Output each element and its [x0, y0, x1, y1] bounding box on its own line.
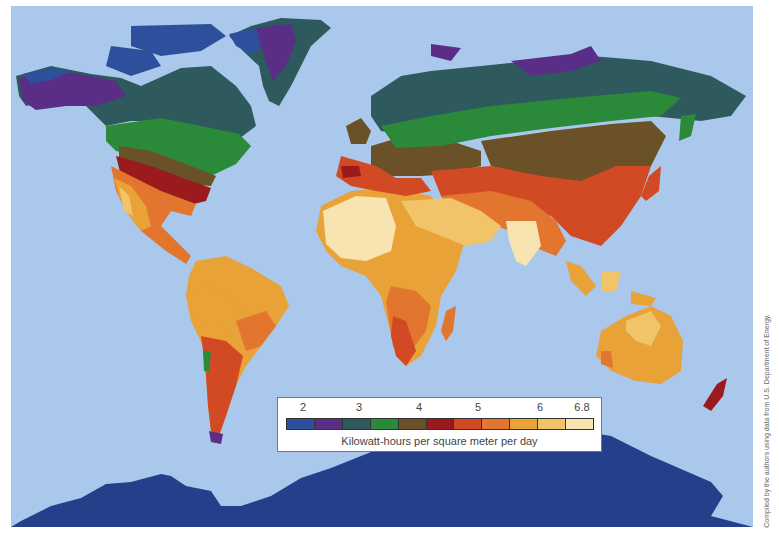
legend-tick: 4 — [416, 401, 422, 413]
legend-swatch — [399, 419, 427, 429]
legend-tick: 5 — [475, 401, 481, 413]
source-credit: Compiled by the authors using data from … — [763, 314, 770, 527]
legend-tick: 6.8 — [574, 401, 589, 413]
legend-swatch — [538, 419, 566, 429]
legend-swatch — [482, 419, 510, 429]
legend-swatch — [566, 419, 593, 429]
new-zealand — [703, 378, 727, 411]
legend-swatch — [371, 419, 399, 429]
legend-swatch — [287, 419, 315, 429]
south-america — [186, 256, 289, 436]
legend-tick: 2 — [300, 401, 306, 413]
legend-color-bar — [286, 418, 594, 430]
legend-swatch — [510, 419, 538, 429]
legend-caption: Kilowatt-hours per square meter per day — [278, 435, 601, 447]
legend: 2 3 4 5 6 6.8 Kilowatt-hours per square … — [277, 397, 602, 452]
legend-swatch — [427, 419, 455, 429]
legend-swatch — [315, 419, 343, 429]
legend-tick: 6 — [537, 401, 543, 413]
legend-swatch — [343, 419, 371, 429]
legend-tick: 3 — [356, 401, 362, 413]
legend-swatch — [454, 419, 482, 429]
